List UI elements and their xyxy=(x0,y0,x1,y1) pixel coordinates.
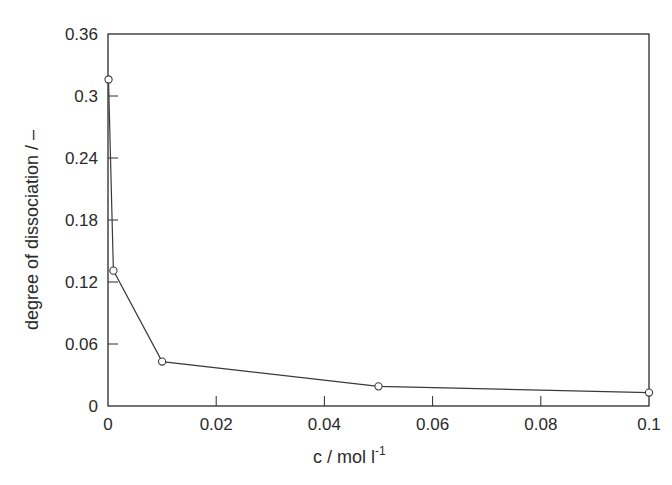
series-line xyxy=(109,80,650,393)
data-point-marker xyxy=(159,358,166,365)
data-point-marker xyxy=(105,76,112,83)
x-tick-label: 0.02 xyxy=(200,415,233,434)
y-tick-label: 0.12 xyxy=(65,273,98,292)
y-tick-label: 0.06 xyxy=(65,335,98,354)
x-tick-label: 0.1 xyxy=(637,415,661,434)
chart: 00.060.120.180.240.30.36 00.020.040.060.… xyxy=(0,0,672,485)
x-tick-label: 0.06 xyxy=(416,415,449,434)
data-point-marker xyxy=(375,383,382,390)
x-tick-label: 0.04 xyxy=(308,415,341,434)
x-axis-ticks: 00.020.040.060.080.1 xyxy=(103,396,661,434)
y-tick-label: 0.3 xyxy=(74,87,98,106)
y-axis-ticks: 00.060.120.180.240.30.36 xyxy=(65,25,118,416)
x-axis-label: c / mol l-1 xyxy=(313,444,386,467)
y-tick-label: 0.18 xyxy=(65,211,98,230)
x-tick-label: 0.08 xyxy=(524,415,557,434)
x-axis-label-superscript: -1 xyxy=(375,444,386,458)
y-tick-label: 0.24 xyxy=(65,149,98,168)
data-point-marker xyxy=(110,267,117,274)
data-series xyxy=(105,76,653,396)
x-axis-label-main: c / mol l xyxy=(313,447,375,467)
y-axis-label: degree of dissociation / – xyxy=(22,130,42,330)
plot-border xyxy=(108,34,649,406)
plot-frame xyxy=(108,34,649,406)
y-tick-label: 0 xyxy=(89,397,98,416)
data-point-marker xyxy=(645,389,652,396)
x-tick-label: 0 xyxy=(103,415,112,434)
y-tick-label: 0.36 xyxy=(65,25,98,44)
